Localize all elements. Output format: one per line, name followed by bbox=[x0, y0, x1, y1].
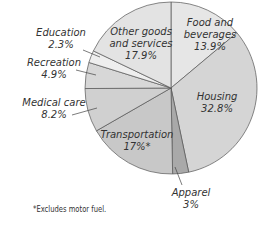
label-education: Education2.3% bbox=[36, 27, 86, 50]
label-recreation: Recreation4.9% bbox=[27, 57, 81, 80]
label-medical-care: Medical care8.2% bbox=[22, 97, 85, 120]
label-apparel: Apparel3% bbox=[171, 187, 211, 210]
label-housing: Housing32.8% bbox=[197, 91, 238, 114]
pie-chart: Food andbeverages13.9%Housing32.8%Appare… bbox=[0, 0, 271, 225]
footnote: *Excludes motor fuel. bbox=[33, 205, 106, 214]
